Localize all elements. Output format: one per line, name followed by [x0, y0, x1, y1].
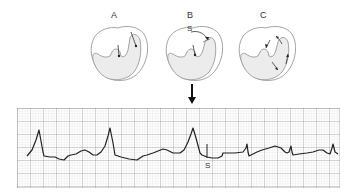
panel-label-c: C [260, 10, 267, 20]
heart-diagram-a [88, 22, 150, 84]
panel-label-a: A [111, 10, 117, 20]
heart-diagram-b: S [163, 22, 225, 84]
s-marker-label: S [205, 161, 210, 170]
heart-diagram-c [236, 22, 298, 84]
ecg-strip: S [17, 108, 340, 188]
down-arrow-icon [188, 84, 196, 104]
site-label-s: S [187, 24, 192, 33]
panel-label-b: B [187, 10, 193, 20]
